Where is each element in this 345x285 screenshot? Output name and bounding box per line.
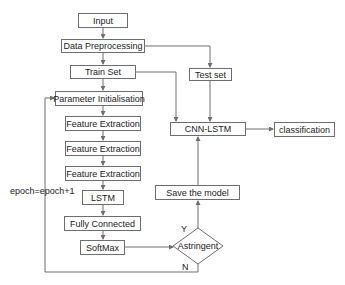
softmax-box: SoftMax	[80, 240, 125, 255]
cnn-lstm-box: CNN-LSTM	[170, 122, 246, 136]
feature-extraction-box-1: Feature Extraction	[65, 116, 141, 131]
test-set-box: Test set	[189, 68, 232, 81]
train-set-box: Train Set	[70, 65, 136, 79]
astringent-decision-label: Astringent	[178, 241, 219, 251]
parameter-initialisation-box: Parameter Initialisation	[55, 91, 143, 106]
yes-label: Y	[181, 224, 187, 234]
save-model-box: Save the model	[155, 185, 240, 200]
lstm-box: LSTM	[82, 190, 124, 205]
classification-box: classification	[274, 122, 335, 137]
no-label: N	[182, 262, 189, 272]
epoch-loop-label: epoch=epoch+1	[10, 186, 75, 196]
fully-connected-box: Fully Connected	[64, 216, 141, 231]
data-preprocessing-box: Data Preprocessing	[61, 39, 145, 53]
feature-extraction-box-2: Feature Extraction	[65, 141, 141, 156]
feature-extraction-box-3: Feature Extraction	[65, 166, 141, 181]
input-box: Input	[78, 13, 128, 28]
flowchart-edges	[0, 0, 345, 285]
